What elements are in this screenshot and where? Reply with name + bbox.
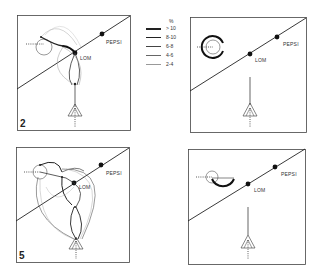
panel-bottom-right: PEPSI LOM	[188, 149, 306, 265]
panel-bottom-left: PEPSI LOM 5	[16, 147, 130, 263]
diagram-top-left	[17, 15, 131, 131]
panel-top-left: PEPSI LOM 2	[17, 15, 131, 131]
legend-item: 2-4	[146, 61, 186, 67]
label-lom: LOM	[79, 184, 90, 190]
label-lom: LOM	[254, 187, 265, 193]
legend-item: 6-8	[146, 43, 186, 49]
diagram-bottom-left	[16, 147, 130, 263]
label-pepsi: PEPSI	[106, 170, 122, 176]
panel-number: 5	[19, 250, 25, 261]
legend-unit: %	[169, 18, 173, 24]
label-lom: LOM	[80, 55, 91, 61]
label-pepsi: PEPSI	[283, 41, 299, 47]
legend-item: 4-6	[146, 52, 186, 58]
panel-number: 2	[20, 118, 26, 129]
label-pepsi: PEPSI	[106, 39, 122, 45]
label-pepsi: PEPSI	[281, 171, 297, 177]
label-lom: LOM	[255, 57, 266, 63]
diagram-top-right	[190, 17, 307, 133]
legend-item: > 10	[146, 25, 186, 31]
panel-top-right: PEPSI LOM	[190, 17, 307, 133]
legend-item: 8-10	[146, 34, 186, 40]
diagram-bottom-right	[188, 149, 306, 265]
